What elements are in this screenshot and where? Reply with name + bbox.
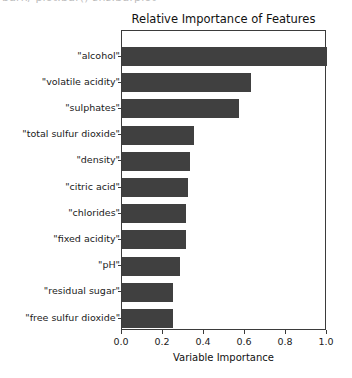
bar-fill: [122, 73, 251, 92]
x-axis-tick-label: 0.2: [142, 336, 182, 347]
x-axis-tick-mark: [285, 330, 286, 334]
bar-fill: [122, 309, 173, 328]
chart-title: Relative Importance of Features: [121, 12, 326, 26]
y-axis-tick-mark: [118, 134, 122, 135]
bar-fill: [122, 99, 239, 118]
y-axis-tick-label: "alcohol": [2, 51, 120, 61]
chart-figure: Relative Importance of Features "alcohol…: [0, 0, 352, 378]
bar: [122, 178, 188, 197]
x-axis-tick-label: 1.0: [306, 336, 346, 347]
y-axis-tick-mark: [118, 82, 122, 83]
bar-fill: [122, 257, 180, 276]
y-axis-tick-label: "volatile acidity": [2, 77, 120, 87]
bar: [122, 73, 251, 92]
y-axis-tick-label: "chlorides": [2, 208, 120, 218]
x-axis-tick-mark: [162, 330, 163, 334]
y-axis-tick-label: "density": [2, 155, 120, 165]
bar-fill: [122, 230, 186, 249]
bar: [122, 230, 186, 249]
y-axis-tick-mark: [118, 239, 122, 240]
x-axis-tick-mark: [244, 330, 245, 334]
bar: [122, 283, 173, 302]
y-axis-tick-label: "pH": [2, 260, 120, 270]
x-axis-label: Variable Importance: [121, 352, 326, 363]
y-axis-tick-mark: [118, 213, 122, 214]
y-axis-tick-label: "residual sugar": [2, 286, 120, 296]
plot-area: [121, 30, 326, 330]
bar: [122, 204, 186, 223]
bar: [122, 152, 190, 171]
bar-fill: [122, 178, 188, 197]
y-axis-tick-mark: [118, 318, 122, 319]
x-axis-tick-mark: [326, 330, 327, 334]
bar-fill: [122, 152, 190, 171]
y-axis-tick-label: "sulphates": [2, 103, 120, 113]
bar-fill: [122, 283, 173, 302]
y-axis-tick-label: "total sulfur dioxide": [2, 129, 120, 139]
y-axis-tick-mark: [118, 187, 122, 188]
x-axis-tick-mark: [121, 330, 122, 334]
bar-fill: [122, 126, 194, 145]
bar: [122, 99, 239, 118]
y-axis-tick-mark: [118, 265, 122, 266]
x-axis-tick-mark: [203, 330, 204, 334]
x-axis-tick-label: 0.8: [265, 336, 305, 347]
x-axis-tick-label: 0.6: [224, 336, 264, 347]
y-axis-tick-label: "citric acid": [2, 182, 120, 192]
bar-fill: [122, 204, 186, 223]
bar-series: [122, 31, 325, 329]
y-axis-tick-label: "fixed acidity": [2, 234, 120, 244]
y-axis-tick-mark: [118, 56, 122, 57]
x-axis-tick-label: 0.4: [183, 336, 223, 347]
bar: [122, 309, 173, 328]
bar-fill: [122, 47, 327, 66]
y-axis-tick-mark: [118, 108, 122, 109]
y-axis-tick-mark: [118, 291, 122, 292]
y-axis-tick-mark: [118, 160, 122, 161]
bar: [122, 126, 194, 145]
y-axis-tick-label: "free sulfur dioxide": [2, 313, 120, 323]
x-axis-tick-label: 0.0: [101, 336, 141, 347]
bar: [122, 257, 180, 276]
bar: [122, 47, 327, 66]
